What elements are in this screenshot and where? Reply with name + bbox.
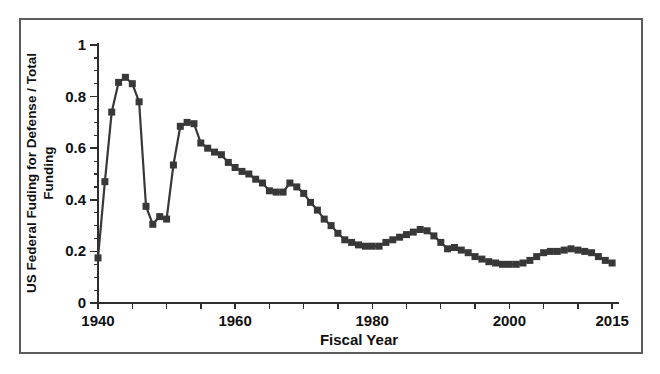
data-point-marker: [451, 244, 458, 251]
data-point-marker: [547, 248, 554, 255]
data-point-marker: [334, 230, 341, 237]
data-point-marker: [170, 162, 177, 169]
x-tick-label: 1960: [218, 312, 251, 329]
data-point-marker: [499, 261, 506, 268]
data-point-marker: [492, 260, 499, 267]
data-point-marker: [389, 236, 396, 243]
data-point-marker: [341, 236, 348, 243]
data-point-marker: [444, 245, 451, 252]
y-axis-title-line2: Funding: [40, 33, 57, 313]
data-point-marker: [465, 249, 472, 256]
data-point-marker: [588, 249, 595, 256]
data-point-marker: [348, 239, 355, 246]
data-point-marker: [300, 190, 307, 197]
data-point-marker: [424, 227, 431, 234]
data-point-marker: [396, 234, 403, 241]
data-point-marker: [191, 120, 198, 127]
data-point-marker: [437, 239, 444, 246]
data-point-marker: [355, 241, 362, 248]
data-point-marker: [273, 189, 280, 196]
data-point-marker: [602, 257, 609, 264]
chart-figure: 00.20.40.60.8119401960198020002015 US Fe…: [0, 0, 660, 374]
data-point-marker: [259, 180, 266, 187]
data-point-marker: [513, 261, 520, 268]
data-point-marker: [540, 249, 547, 256]
data-point-marker: [321, 216, 328, 223]
data-point-marker: [520, 260, 527, 267]
data-point-marker: [286, 180, 293, 187]
x-axis-title: Fiscal Year: [98, 331, 620, 348]
data-series-line: [98, 77, 612, 264]
data-point-marker: [526, 257, 533, 264]
data-point-marker: [129, 80, 136, 87]
x-tick-label: 1980: [356, 312, 389, 329]
data-point-marker: [293, 183, 300, 190]
data-point-marker: [266, 187, 273, 194]
data-point-marker: [101, 178, 108, 185]
data-point-marker: [197, 140, 204, 147]
y-tick-label: 0.6: [65, 139, 86, 156]
y-axis-title-line1: US Federal Fuding for Defense / Total: [23, 33, 40, 313]
data-point-marker: [568, 245, 575, 252]
y-tick-label: 0.2: [65, 242, 86, 259]
data-point-marker: [410, 229, 417, 236]
data-point-marker: [122, 74, 129, 81]
y-tick-label: 1: [78, 36, 86, 53]
y-tick-label: 0.4: [65, 191, 87, 208]
data-point-marker: [177, 123, 184, 130]
y-axis-title: US Federal Fuding for Defense / Total Fu…: [23, 33, 59, 313]
data-point-marker: [149, 221, 156, 228]
data-point-marker: [506, 261, 513, 268]
data-point-marker: [115, 79, 122, 86]
data-point-marker: [143, 203, 150, 210]
data-point-marker: [362, 243, 369, 250]
data-point-marker: [252, 176, 259, 183]
data-point-marker: [382, 239, 389, 246]
data-point-marker: [430, 232, 437, 239]
data-point-marker: [211, 149, 218, 156]
data-point-marker: [581, 248, 588, 255]
data-point-marker: [609, 260, 616, 267]
x-tick-label: 1940: [81, 312, 114, 329]
data-point-marker: [314, 207, 321, 214]
x-tick-label: 2015: [595, 312, 628, 329]
data-point-marker: [328, 222, 335, 229]
data-point-marker: [574, 247, 581, 254]
y-tick-label: 0.8: [65, 88, 86, 105]
data-point-marker: [417, 226, 424, 233]
data-point-marker: [472, 253, 479, 260]
x-tick-label: 2000: [493, 312, 526, 329]
data-point-marker: [225, 159, 232, 166]
data-point-marker: [280, 189, 287, 196]
data-point-marker: [95, 254, 102, 261]
data-point-marker: [458, 247, 465, 254]
data-point-marker: [108, 109, 115, 116]
data-point-marker: [533, 253, 540, 260]
data-point-marker: [554, 248, 561, 255]
data-point-marker: [184, 119, 191, 126]
data-point-marker: [307, 199, 314, 206]
chart-canvas: 00.20.40.60.8119401960198020002015: [0, 0, 660, 374]
data-point-marker: [485, 258, 492, 265]
data-point-marker: [369, 243, 376, 250]
data-point-marker: [403, 231, 410, 238]
data-point-marker: [218, 151, 225, 158]
data-point-marker: [595, 253, 602, 260]
data-point-marker: [136, 98, 143, 105]
data-point-marker: [245, 171, 252, 178]
y-tick-label: 0: [78, 294, 86, 311]
data-point-marker: [239, 168, 246, 175]
data-point-marker: [204, 145, 211, 152]
data-point-marker: [156, 213, 163, 220]
data-point-marker: [232, 164, 239, 171]
data-point-marker: [163, 216, 170, 223]
data-point-marker: [561, 247, 568, 254]
data-point-marker: [478, 256, 485, 263]
data-point-marker: [376, 243, 383, 250]
